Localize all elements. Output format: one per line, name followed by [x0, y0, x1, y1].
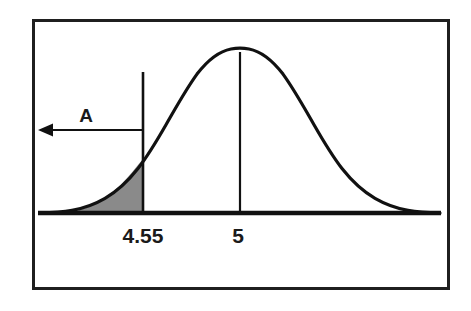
xtick-label-cutoff: 4.55: [123, 224, 164, 247]
normal-distribution-figure: A 4.55 5: [0, 0, 471, 311]
area-label-A: A: [79, 105, 93, 126]
distribution-chart-svg: A 4.55 5: [0, 0, 471, 311]
xtick-label-mean: 5: [232, 224, 244, 247]
